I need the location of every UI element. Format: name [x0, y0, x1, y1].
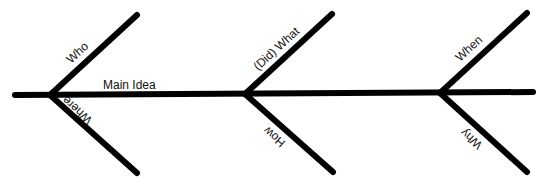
branch-why-line	[440, 93, 527, 172]
fishbone-diagram: Main Idea Who Where (Did) What How When …	[0, 0, 546, 186]
main-idea-label: Main Idea	[103, 78, 156, 92]
branch-what-line	[245, 14, 332, 94]
fishbone-svg: Main Idea Who Where (Did) What How When …	[0, 0, 546, 186]
spine-line	[15, 92, 533, 95]
branch-how-line	[245, 94, 333, 172]
